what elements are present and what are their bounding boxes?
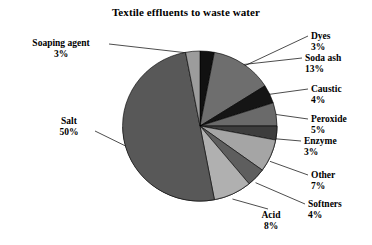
slice-label-softners-name: Softners (308, 199, 342, 210)
leader-line-salt (95, 131, 125, 146)
slice-label-peroxide: Peroxide 5% (311, 114, 347, 135)
slice-label-enzyme: Enzyme 3% (304, 136, 337, 157)
slice-label-caustic: Caustic 4% (311, 84, 342, 105)
pie-top-face-group (123, 51, 277, 201)
slice-label-dyes: Dyes 3% (311, 31, 331, 52)
slice-label-enzyme-value: 3% (304, 147, 337, 158)
slice-label-caustic-value: 4% (311, 95, 342, 106)
pie-chart-figure: Textile effluents to waste water Soaping… (0, 0, 372, 245)
slice-label-enzyme-name: Enzyme (304, 136, 337, 147)
slice-label-other: Other 7% (311, 170, 335, 191)
slice-label-peroxide-value: 5% (311, 125, 347, 136)
slice-label-other-name: Other (311, 170, 335, 181)
leader-line-acid (232, 199, 268, 209)
slice-label-acid: Acid 8% (253, 210, 289, 231)
leader-line-peroxide (275, 114, 308, 119)
slice-label-soda-ash-name: Soda ash (305, 53, 341, 64)
slice-label-soaping-agent-name: Soaping agent (14, 38, 108, 49)
leader-line-other (270, 161, 308, 175)
leader-line-soaping-agent (109, 44, 193, 54)
leader-line-enzyme (276, 139, 301, 141)
slice-label-acid-name: Acid (253, 210, 289, 221)
slice-label-salt: Salt 50% (46, 116, 92, 137)
slice-label-dyes-value: 3% (311, 42, 331, 53)
slice-label-peroxide-name: Peroxide (311, 114, 347, 125)
slice-label-softners: Softners 4% (308, 199, 342, 220)
leader-line-softners (256, 183, 305, 204)
slice-label-soda-ash-value: 13% (305, 64, 341, 75)
leader-line-caustic (269, 89, 308, 94)
slice-label-dyes-name: Dyes (311, 31, 331, 42)
slice-label-acid-value: 8% (253, 221, 289, 232)
slice-label-other-value: 7% (311, 181, 335, 192)
slice-label-caustic-name: Caustic (311, 84, 342, 95)
slice-label-soaping-agent: Soaping agent 3% (14, 38, 108, 59)
slice-label-softners-value: 4% (308, 210, 342, 221)
leader-line-soda-ash (243, 58, 302, 65)
slice-label-salt-name: Salt (46, 116, 92, 127)
slice-label-salt-value: 50% (46, 127, 92, 138)
slice-label-soaping-agent-value: 3% (14, 49, 108, 60)
slice-label-soda-ash: Soda ash 13% (305, 53, 341, 74)
